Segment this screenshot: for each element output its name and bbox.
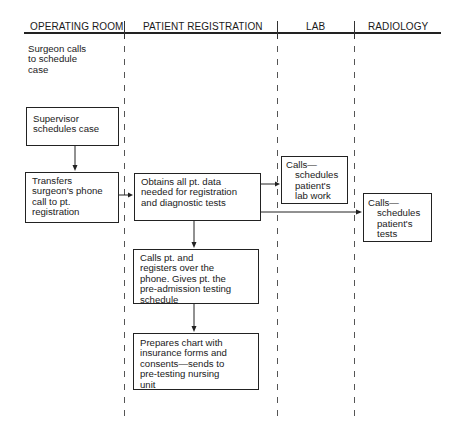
- flow-arrows: [0, 0, 461, 432]
